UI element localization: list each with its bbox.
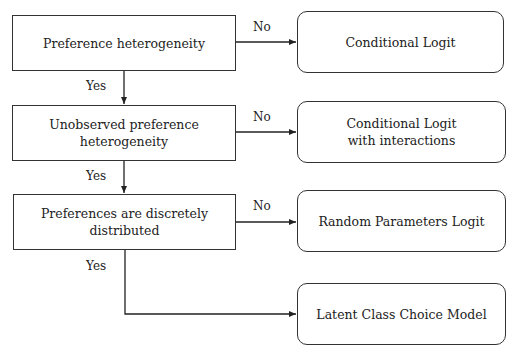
outcome-conditional-logit: Conditional Logit xyxy=(297,11,504,73)
outcome-label: Random Parameters Logit xyxy=(318,213,484,230)
edge-yes-3 xyxy=(125,249,296,314)
outcome-random-parameters-logit: Random Parameters Logit xyxy=(297,190,506,252)
decision-label: Preference heterogeneity xyxy=(43,35,205,52)
decision-label: Preferences are discretely distributed xyxy=(14,205,235,239)
edge-label-no-2: No xyxy=(253,110,271,124)
edge-label-no-1: No xyxy=(253,20,271,34)
decision-unobserved-preference-heterogeneity: Unobserved preference heterogeneity xyxy=(12,105,236,161)
outcome-label: Conditional Logit with interactions xyxy=(338,115,465,149)
edge-label-no-3: No xyxy=(253,199,271,213)
edge-label-yes-2: Yes xyxy=(86,169,106,183)
outcome-label: Latent Class Choice Model xyxy=(316,306,486,323)
outcome-latent-class-choice-model: Latent Class Choice Model xyxy=(297,283,506,345)
outcome-label: Conditional Logit xyxy=(345,34,455,51)
edge-label-yes-3: Yes xyxy=(86,259,106,273)
decision-discretely-distributed: Preferences are discretely distributed xyxy=(13,194,236,250)
outcome-conditional-logit-interactions: Conditional Logit with interactions xyxy=(297,101,506,163)
edge-label-yes-1: Yes xyxy=(86,79,106,93)
decision-label: Unobserved preference heterogeneity xyxy=(13,116,235,150)
decision-preference-heterogeneity: Preference heterogeneity xyxy=(12,15,236,71)
